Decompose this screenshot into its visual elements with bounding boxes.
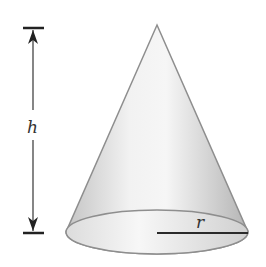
labels-layer: h r [0,0,266,267]
radius-label: r [196,212,205,232]
height-label: h [27,117,38,137]
cone-diagram: h r [0,0,266,267]
